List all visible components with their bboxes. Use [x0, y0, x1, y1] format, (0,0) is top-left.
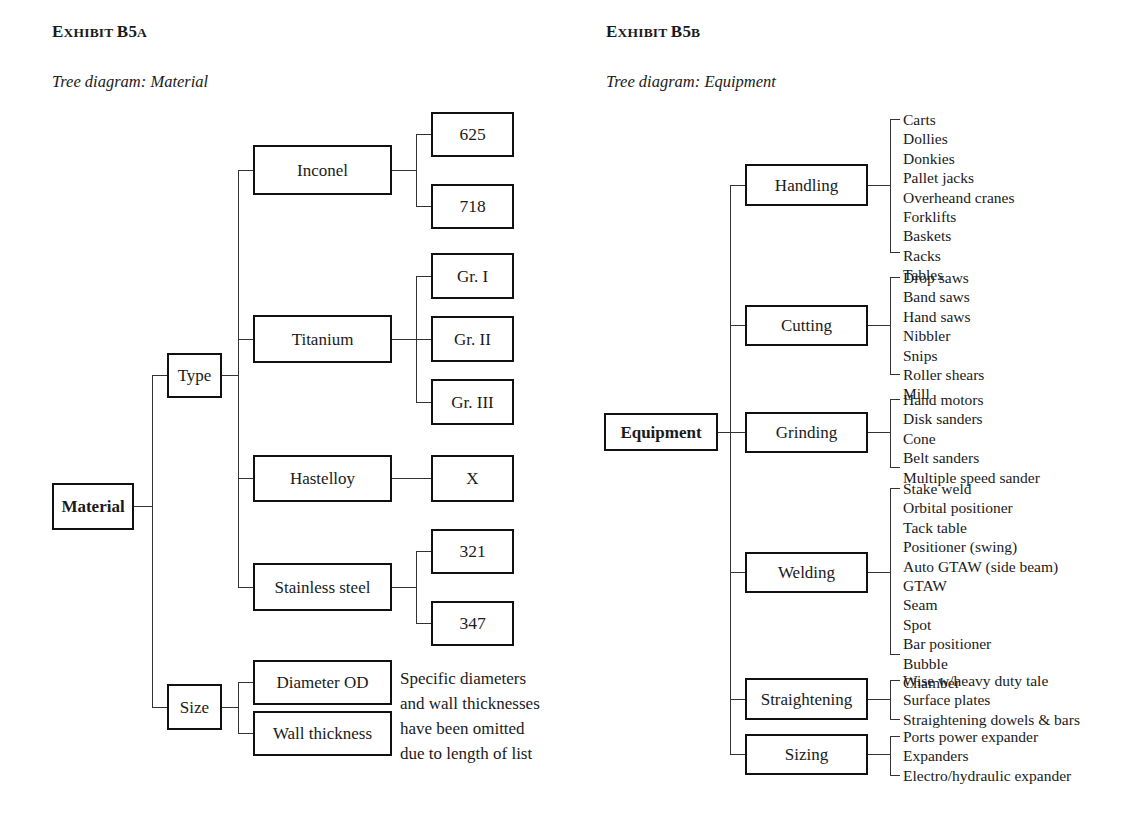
leaf-list-straightening: Wise w/heavy duty tale Surface plates St… [903, 671, 1080, 729]
exhibit-b5b-title-smallcaps: XHIBIT [618, 25, 671, 40]
connector-stainless-out [392, 587, 416, 588]
node-straightening[interactable]: Straightening [745, 678, 868, 720]
node-hastelloy[interactable]: Hastelloy [253, 455, 392, 502]
node-grinding[interactable]: Grinding [745, 412, 868, 453]
list-item: Cone [903, 429, 1040, 448]
node-type[interactable]: Type [167, 353, 222, 398]
leaf-list-grinding: Hand motors Disk sanders Cone Belt sande… [903, 390, 1040, 487]
connector-equipment-stub [718, 432, 730, 433]
node-titanium[interactable]: Titanium [253, 315, 392, 363]
list-item: Auto GTAW (side beam) [903, 557, 1058, 576]
connector-321-in [416, 551, 431, 552]
connector-cutting-out [868, 325, 890, 326]
connector-diameter-in [238, 682, 253, 683]
list-item: Positioner (swing) [903, 537, 1058, 556]
connector-type-stub [152, 375, 167, 376]
node-inconel[interactable]: Inconel [253, 145, 392, 195]
connector-main-trunk [152, 375, 153, 707]
node-diameter-od[interactable]: Diameter OD [253, 660, 392, 705]
list-item: Orbital positioner [903, 498, 1058, 517]
list-item: Nibbler [903, 326, 984, 345]
list-item: Expanders [903, 746, 1071, 765]
connector-welding-first-tick [890, 488, 900, 489]
connector-grinding-in [730, 432, 745, 433]
node-stainless-321[interactable]: 321 [431, 529, 514, 574]
connector-inconel-in [238, 170, 253, 171]
list-item: Baskets [903, 226, 1014, 245]
list-item: Pallet jacks [903, 168, 1014, 187]
list-item: Band saws [903, 287, 984, 306]
list-item: Racks [903, 246, 1014, 265]
node-titanium-gr-i[interactable]: Gr. I [431, 253, 514, 299]
leaf-list-handling: Carts Dollies Donkies Pallet jacks Overh… [903, 110, 1014, 285]
connector-gr1-in [416, 276, 431, 277]
list-item: Stake weld [903, 479, 1058, 498]
list-item: Carts [903, 110, 1014, 129]
connector-titanium-in [238, 339, 253, 340]
connector-welding-in [730, 572, 745, 573]
connector-625-in [416, 134, 431, 135]
connector-straightening-leaf-trunk [890, 680, 891, 719]
node-titanium-gr-ii[interactable]: Gr. II [431, 316, 514, 362]
node-cutting[interactable]: Cutting [745, 305, 868, 346]
document-page: EXHIBIT B5A Tree diagram: Material Mater… [0, 0, 1132, 818]
list-item: Snips [903, 346, 984, 365]
connector-cutting-leaf-trunk [890, 277, 891, 374]
list-item: Donkies [903, 149, 1014, 168]
connector-straightening-in [730, 699, 745, 700]
exhibit-b5b-subtitle: Tree diagram: Equipment [606, 72, 776, 92]
connector-type-out [222, 375, 238, 376]
node-inconel-718[interactable]: 718 [431, 184, 514, 229]
connector-size-stub [152, 707, 167, 708]
connector-cutting-in [730, 325, 745, 326]
connector-equipment-trunk [730, 185, 731, 754]
connector-handling-out [868, 185, 890, 186]
node-welding[interactable]: Welding [745, 552, 868, 593]
connector-handling-leaf-trunk [890, 119, 891, 252]
node-size[interactable]: Size [167, 684, 222, 730]
connector-inconel-out [392, 170, 416, 171]
node-equipment-root[interactable]: Equipment [604, 413, 718, 451]
connector-grinding-last-tick [890, 467, 900, 468]
connector-welding-out [868, 572, 890, 573]
connector-size-out [222, 707, 238, 708]
node-wall-thickness[interactable]: Wall thickness [253, 711, 392, 756]
list-item: Seam [903, 595, 1058, 614]
connector-hastelloy-in [238, 478, 253, 479]
node-material-root[interactable]: Material [52, 483, 134, 530]
connector-hastelloy-out [392, 478, 431, 479]
list-item: Hand saws [903, 307, 984, 326]
node-stainless-steel[interactable]: Stainless steel [253, 563, 392, 611]
leaf-list-welding: Stake weld Orbital positioner Tack table… [903, 479, 1058, 692]
connector-gr2-in [416, 339, 431, 340]
node-inconel-625[interactable]: 625 [431, 112, 514, 157]
connector-wall-in [238, 733, 253, 734]
list-item: Forklifts [903, 207, 1014, 226]
node-stainless-347[interactable]: 347 [431, 601, 514, 646]
connector-sizing-in [730, 754, 745, 755]
node-titanium-gr-iii[interactable]: Gr. III [431, 379, 514, 425]
connector-sizing-out [868, 754, 890, 755]
connector-grinding-out [868, 432, 890, 433]
connector-handling-in [730, 185, 745, 186]
exhibit-b5a-subtitle: Tree diagram: Material [52, 72, 208, 92]
node-handling[interactable]: Handling [745, 164, 868, 206]
exhibit-b5b-number: B5 [671, 22, 691, 41]
connector-straightening-last-tick [890, 719, 900, 720]
connector-cutting-first-tick [890, 277, 900, 278]
connector-cutting-last-tick [890, 374, 900, 375]
connector-sizing-last-tick [890, 775, 900, 776]
list-item: GTAW [903, 576, 1058, 595]
exhibit-b5a-title: EXHIBIT B5A [52, 22, 147, 42]
list-item: Dollies [903, 129, 1014, 148]
node-sizing[interactable]: Sizing [745, 734, 868, 775]
connector-welding-leaf-trunk [890, 488, 891, 654]
connector-handling-first-tick [890, 119, 900, 120]
connector-gr3-in [416, 402, 431, 403]
node-hastelloy-x[interactable]: X [431, 455, 514, 502]
connector-welding-last-tick [890, 654, 900, 655]
connector-718-in [416, 206, 431, 207]
connector-grinding-first-tick [890, 399, 900, 400]
list-item: Roller shears [903, 365, 984, 384]
list-item: Spot [903, 615, 1058, 634]
